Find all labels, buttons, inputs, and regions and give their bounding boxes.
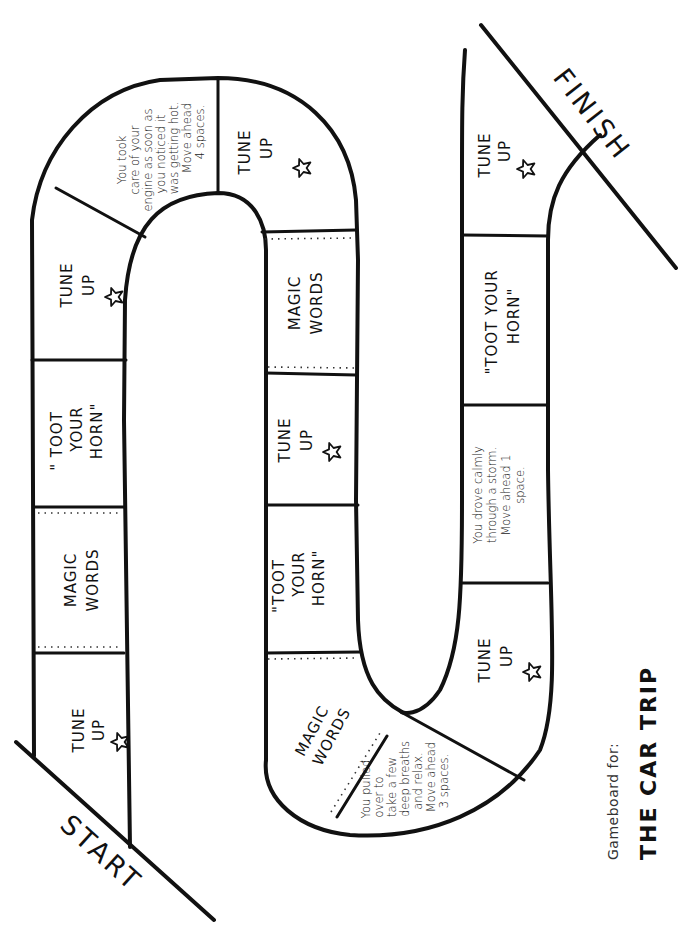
space-15-tune-up[interactable]: TUNE UP [476, 133, 534, 179]
space-3-toot-horn[interactable]: " TOOT YOUR HORN" [48, 403, 106, 471]
note-line: 4 spaces. [193, 105, 207, 159]
star-icon [517, 160, 534, 178]
space-14-toot-horn[interactable]: "TOOT YOUR HORN" [483, 269, 523, 374]
space-12-tune-up[interactable]: TUNE UP [476, 638, 540, 684]
star-icon [111, 733, 128, 751]
note-line: Move ahead 1 [499, 454, 513, 535]
space-2-magic-words[interactable]: MAGIC WORDS [62, 548, 102, 611]
star-icon [105, 288, 122, 306]
space-label: "TOOT YOUR [483, 269, 501, 374]
caption: Gameboard for: THE CAR TRIP [605, 666, 661, 860]
space-label: TUNE [236, 130, 254, 176]
space-label: "TOOT [270, 559, 288, 613]
star-icon [293, 159, 310, 177]
space-label: TUNE [476, 638, 494, 684]
space-label: MAGIC [286, 276, 304, 330]
space-label: UP [498, 645, 516, 667]
caption-subtitle: Gameboard for: [605, 743, 621, 860]
space-label: WORDS [84, 548, 102, 611]
space-label: YOUR [290, 551, 308, 598]
note-line: and relax. [411, 752, 425, 810]
space-label: HORN" [505, 288, 523, 345]
note-line: You drove calmly [471, 446, 485, 544]
note-line: through a storm. [485, 447, 499, 543]
space-label: HORN" [310, 550, 328, 607]
space-label: HORN" [88, 403, 106, 460]
space-4-tune-up[interactable]: TUNE UP [58, 263, 122, 309]
space-9-toot-horn[interactable]: "TOOT YOUR HORN" [270, 550, 328, 613]
space-label: UP [496, 140, 514, 162]
note-line: 3 spaces. [437, 754, 451, 808]
space-label: UP [298, 429, 316, 451]
star-icon [523, 663, 540, 681]
note-line: Move ahead [424, 742, 438, 812]
caption-title: THE CAR TRIP [636, 666, 661, 860]
space-10-magic-words[interactable]: MAGIC WORDS [291, 695, 354, 769]
note-line: care of your [128, 125, 142, 194]
gameboard: START FINISH TUNE UP MAGIC WO [0, 0, 691, 932]
space-label: TUNE [476, 133, 494, 179]
note-line: You took [115, 135, 129, 184]
space-label: UP [90, 719, 108, 741]
space-label: WORDS [308, 271, 326, 334]
note-line: You pulled [359, 760, 373, 819]
space-label: UP [258, 137, 276, 159]
note-line: take a few [385, 757, 399, 817]
start-label: START [54, 809, 148, 898]
note-line: space. [513, 466, 527, 503]
space-label: UP [80, 274, 98, 296]
space-label: MAGIC [62, 553, 80, 607]
note-line: was getting hot. [167, 102, 181, 195]
finish-label: FINISH [547, 62, 637, 165]
note-line: over to [372, 777, 386, 818]
star-icon [323, 443, 340, 461]
space-label: YOUR [68, 406, 86, 453]
note-line: you noticed it [154, 115, 168, 194]
space-label: TUNE [70, 708, 88, 754]
note-line: engine as soon as [141, 108, 155, 211]
space-13-bonus-note[interactable]: You drove calmly through a storm. Move a… [471, 446, 527, 544]
start-line [16, 742, 214, 920]
space-6-tune-up[interactable]: TUNE UP [236, 130, 310, 177]
space-label: TUNE [58, 263, 76, 309]
space-7-magic-words[interactable]: MAGIC WORDS [286, 271, 326, 334]
space-label: TUNE [276, 418, 294, 464]
space-label: " TOOT [48, 411, 66, 471]
note-line: Move ahead [180, 103, 194, 173]
space-1-tune-up[interactable]: TUNE UP [70, 708, 128, 754]
note-line: deep breaths [398, 741, 412, 817]
space-8-tune-up[interactable]: TUNE UP [276, 418, 340, 464]
space-11-bonus-note[interactable]: You pulled over to take a few deep breat… [359, 741, 451, 818]
